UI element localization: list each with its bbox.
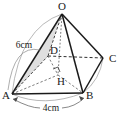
edge-bc [83, 58, 103, 93]
dimension-label-4cm: 4cm [43, 103, 60, 113]
vertex-label-o: O [58, 0, 66, 12]
vertex-label-h: H [57, 75, 65, 87]
edge-dh [48, 56, 58, 75]
vertex-label-c: C [109, 52, 116, 64]
geometry-figure: O C D H A B 6cm 4cm [0, 0, 117, 115]
pyramid-diagram: O C D H A B 6cm 4cm [0, 0, 117, 115]
edge-ab [12, 93, 83, 94]
edge-dc [48, 56, 103, 58]
dimension-label-6cm: 6cm [16, 40, 33, 50]
vertex-label-b: B [86, 89, 93, 101]
vertex-label-a: A [2, 89, 10, 101]
vertex-label-d: D [50, 44, 58, 56]
dimension-arrow-b [79, 96, 84, 101]
